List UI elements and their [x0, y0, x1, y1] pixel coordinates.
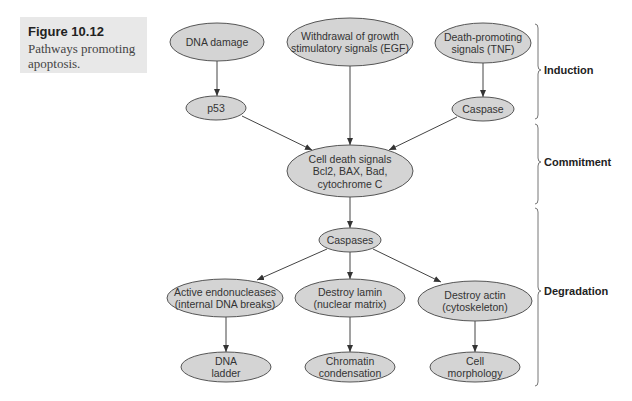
stage-induction: Induction: [535, 24, 594, 119]
node-label-line: stimulatory signals (EGF): [291, 42, 409, 54]
node-death-promoting: Death-promotingsignals (TNF): [435, 23, 531, 63]
arrow-caspases-to-destroy-actin: [373, 249, 441, 282]
node-label-line: signals (TNF): [451, 43, 514, 55]
node-label-line: DNA damage: [186, 36, 249, 48]
node-label-line: Withdrawal of growth: [301, 30, 399, 42]
node-label-line: Caspase: [462, 103, 504, 115]
node-label-line: Cell: [466, 355, 484, 367]
arrow-caspase-to-cell-death-signals: [389, 117, 457, 150]
apoptosis-pathway-diagram: DNA damageWithdrawal of growthstimulator…: [0, 0, 632, 401]
node-label-line: morphology: [448, 367, 504, 379]
stage-label: Commitment: [544, 156, 612, 168]
node-destroy-actin: Destroy actin(cytoskeleton): [418, 281, 532, 321]
node-label-line: Active endonucleases: [174, 286, 276, 298]
brace-icon: [535, 124, 541, 204]
node-label-line: (nuclear matrix): [314, 298, 387, 310]
node-dna-ladder: DNAladder: [181, 352, 271, 382]
node-label-line: Destroy actin: [444, 289, 505, 301]
stage-commitment: Commitment: [535, 124, 612, 204]
node-destroy-lamin: Destroy lamin(nuclear matrix): [295, 279, 405, 317]
node-label-line: Caspases: [327, 234, 374, 246]
stage-label: Induction: [544, 64, 594, 76]
node-withdrawal-growth: Withdrawal of growthstimulatory signals …: [287, 18, 413, 66]
node-dna-damage: DNA damage: [170, 23, 264, 61]
node-label-line: Destroy lamin: [318, 286, 382, 298]
node-label-line: (internal DNA breaks): [175, 298, 275, 310]
node-cell-morphology: Cellmorphology: [430, 352, 520, 382]
node-p53: p53: [186, 96, 246, 120]
node-label-line: Cell death signals: [309, 153, 392, 165]
node-label-line: Chromatin: [326, 355, 375, 367]
node-chromatin-condensation: Chromatincondensation: [305, 352, 395, 382]
stages-layer: InductionCommitmentDegradation: [535, 24, 612, 386]
stage-degradation: Degradation: [535, 208, 608, 386]
node-active-endonucleases: Active endonucleases(internal DNA breaks…: [167, 279, 283, 317]
node-label-line: DNA: [215, 355, 237, 367]
node-label-line: Death-promoting: [444, 31, 522, 43]
node-caspases: Caspases: [319, 228, 381, 252]
brace-icon: [535, 208, 541, 386]
node-label-line: Bcl2, BAX, Bad,: [313, 165, 388, 177]
node-label-line: cytochrome C: [318, 178, 383, 190]
node-label-line: ladder: [211, 367, 241, 379]
node-caspase: Caspase: [452, 97, 514, 121]
brace-icon: [535, 24, 541, 119]
stage-label: Degradation: [544, 285, 608, 297]
node-label-line: (cytoskeleton): [442, 301, 507, 313]
node-cell-death-signals: Cell death signalsBcl2, BAX, Bad,cytochr…: [287, 145, 413, 197]
node-label-line: condensation: [319, 367, 382, 379]
arrow-p53-to-cell-death-signals: [242, 116, 312, 150]
node-label-line: p53: [207, 102, 225, 114]
arrow-caspases-to-active-endonucleases: [257, 249, 327, 280]
